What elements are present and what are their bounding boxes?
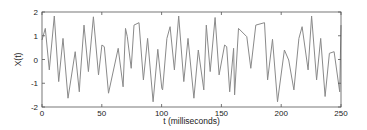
x-axis-label: t (milliseconds) bbox=[163, 116, 220, 126]
y-tick-label: -1 bbox=[31, 79, 39, 88]
x-tick-label: 200 bbox=[275, 109, 289, 118]
x-tick-label: 0 bbox=[40, 109, 45, 118]
x-tick-label: 250 bbox=[334, 109, 348, 118]
line-chart: 050100150200250 -2-1012 t (milliseconds)… bbox=[0, 0, 367, 130]
y-tick-label: 0 bbox=[34, 56, 39, 65]
y-tick-label: 2 bbox=[34, 8, 39, 17]
y-tick-label: -2 bbox=[31, 103, 39, 112]
x-tick-label: 50 bbox=[97, 109, 106, 118]
y-axis-label: X(t) bbox=[13, 52, 23, 66]
y-tick-label: 1 bbox=[34, 32, 39, 41]
